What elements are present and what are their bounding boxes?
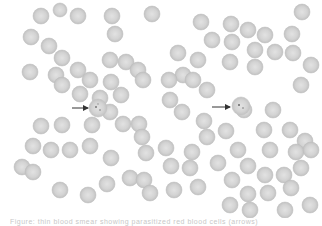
red-blood-cell xyxy=(103,150,119,166)
red-blood-cell xyxy=(107,26,123,42)
red-blood-cell xyxy=(43,142,59,158)
red-blood-cell xyxy=(158,140,174,156)
red-blood-cell xyxy=(222,54,238,70)
red-blood-cell xyxy=(54,117,70,133)
red-blood-cell xyxy=(190,179,206,195)
red-blood-cell xyxy=(242,202,258,218)
red-blood-cell xyxy=(134,129,150,145)
red-blood-cell xyxy=(262,142,278,158)
red-blood-cell xyxy=(302,197,318,213)
red-blood-cell xyxy=(102,52,118,68)
red-blood-cell xyxy=(223,16,239,32)
red-blood-cell xyxy=(267,44,283,60)
red-blood-cell xyxy=(163,158,179,174)
red-blood-cell xyxy=(113,87,129,103)
red-blood-cell xyxy=(53,3,67,17)
red-blood-cell xyxy=(224,172,240,188)
red-blood-cell xyxy=(293,77,309,93)
red-blood-cell xyxy=(82,138,98,154)
red-blood-cell xyxy=(247,42,263,58)
red-blood-cell xyxy=(240,22,256,38)
red-blood-cell xyxy=(22,64,38,80)
red-blood-cell xyxy=(142,185,158,201)
red-blood-cell xyxy=(72,86,88,102)
red-blood-cell xyxy=(282,122,298,138)
red-blood-cell xyxy=(294,4,310,20)
red-blood-cell xyxy=(210,155,226,171)
red-blood-cell xyxy=(303,57,319,73)
red-blood-cell xyxy=(33,8,49,24)
red-blood-cell xyxy=(84,117,100,133)
red-blood-cell xyxy=(257,27,273,43)
red-blood-cell xyxy=(284,26,300,42)
red-blood-cell xyxy=(23,29,39,45)
red-blood-cell xyxy=(257,167,273,183)
red-blood-cell xyxy=(80,187,96,203)
blood-smear-image xyxy=(0,0,322,218)
red-blood-cell xyxy=(230,142,246,158)
red-blood-cell xyxy=(115,116,131,132)
red-blood-cell xyxy=(25,138,41,154)
red-blood-cell xyxy=(199,82,215,98)
red-blood-cell xyxy=(54,77,70,93)
red-blood-cell xyxy=(162,92,178,108)
red-blood-cell xyxy=(288,144,304,160)
red-blood-cell xyxy=(161,72,177,88)
red-blood-cell xyxy=(193,14,209,30)
red-blood-cell xyxy=(185,72,201,88)
red-blood-cell xyxy=(293,160,309,176)
red-blood-cell xyxy=(174,104,190,120)
red-blood-cell xyxy=(184,144,200,160)
red-blood-cell xyxy=(204,32,220,48)
red-blood-cell xyxy=(247,59,263,75)
red-blood-cell xyxy=(256,122,272,138)
red-blood-cell xyxy=(41,38,57,54)
red-blood-cell xyxy=(190,52,206,68)
red-blood-cell xyxy=(62,142,78,158)
red-blood-cell xyxy=(122,170,138,186)
red-blood-cell xyxy=(277,202,293,218)
figure-caption: Figure: thin blood smear showing parasit… xyxy=(10,217,320,226)
red-blood-cell xyxy=(285,45,301,61)
infected-cell-left xyxy=(89,99,107,117)
red-blood-cell xyxy=(224,34,240,50)
red-blood-cell xyxy=(283,180,299,196)
red-blood-cell xyxy=(240,158,256,174)
red-blood-cell xyxy=(218,123,234,139)
red-blood-cell xyxy=(265,102,281,118)
red-blood-cell xyxy=(103,74,119,90)
red-blood-cell xyxy=(33,118,49,134)
red-blood-cell xyxy=(138,145,154,161)
red-blood-cell xyxy=(196,113,212,129)
red-blood-cell xyxy=(54,50,70,66)
red-blood-cell xyxy=(182,160,198,176)
red-blood-cell xyxy=(25,164,41,180)
red-blood-cell xyxy=(166,182,182,198)
red-blood-cell xyxy=(70,8,86,24)
infected-cell-right xyxy=(232,97,250,115)
red-blood-cell xyxy=(260,185,276,201)
red-blood-cell xyxy=(82,72,98,88)
red-blood-cell xyxy=(170,45,186,61)
red-blood-cell xyxy=(144,6,160,22)
red-blood-cell xyxy=(135,72,151,88)
red-blood-cell xyxy=(104,8,120,24)
red-blood-cell xyxy=(199,129,215,145)
red-blood-cell xyxy=(222,197,238,213)
red-blood-cell xyxy=(52,182,68,198)
red-blood-cell xyxy=(99,176,115,192)
red-blood-cell xyxy=(240,186,256,202)
red-blood-cell xyxy=(303,142,319,158)
